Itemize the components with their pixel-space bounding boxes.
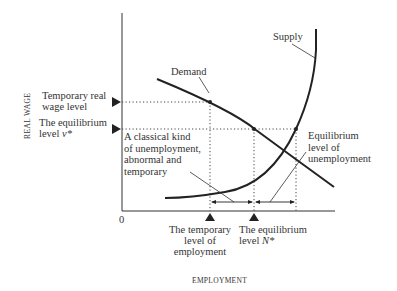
equilibrium-employment-label: The equilibrium level N* [239,224,307,246]
eq-emp-prefix: level [239,235,262,246]
equilibrium-demand-point [252,127,256,131]
y-axis-label: REAL WAGE [23,93,32,139]
supply-label: Supply [273,31,303,42]
temp-emp-line1: The temporary [160,224,240,235]
temporary-point [208,100,212,104]
equilibrium-unemployment-annotation: Equilibrium level of unemployment [308,130,371,165]
temporary-wage-label: Temporary real wage level [42,90,106,112]
demand-leader [199,77,209,93]
temporary-wage-marker-icon [112,97,121,107]
temporary-wage-line2: wage level [42,101,106,112]
origin-label: 0 [119,214,124,225]
supply-point [294,127,298,131]
equilibrium-wage-line2: level ν* [39,128,107,139]
classical-line2: of unemployment, [124,143,201,155]
equilibrium-wage-label: The equilibrium level ν* [39,117,107,139]
supply-leader [292,44,315,58]
x-axis-label: EMPLOYMENT [192,275,247,286]
equilibrium-unemployment-leader [270,152,306,202]
temp-emp-line3: employment [160,246,240,257]
equilibrium-wage-prefix: level [39,128,62,139]
eq-emp-line1: The equilibrium [239,224,307,235]
equilibrium-unemployment-span [255,200,295,204]
temporary-employment-label: The temporary level of employment [160,224,240,257]
classical-line3: abnormal and [124,154,201,166]
equilibrium-wage-symbol: ν* [62,128,72,139]
eq-emp-symbol: N* [262,235,274,246]
eq-unemp-line2: level of [308,142,371,154]
eq-emp-line2: level N* [239,235,307,246]
temp-emp-line2: level of [160,235,240,246]
eq-unemp-line1: Equilibrium [308,130,371,142]
classical-line1: A classical kind [124,131,201,143]
equilibrium-wage-line1: The equilibrium [39,117,107,128]
equilibrium-wage-marker-icon [112,124,121,134]
equilibrium-employment-marker-icon [249,213,259,221]
classical-unemployment-annotation: A classical kind of unemployment, abnorm… [124,131,201,177]
demand-label: Demand [171,66,207,77]
temporary-employment-marker-icon [205,213,215,221]
eq-unemp-line3: unemployment [308,153,371,165]
classical-line4: temporary [124,166,201,178]
temporary-wage-line1: Temporary real [42,90,106,101]
